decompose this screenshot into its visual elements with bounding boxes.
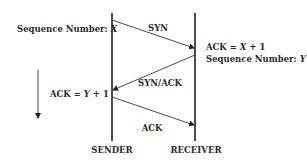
sender-label: SENDER [91,146,132,155]
ack-prefix: ACK = [50,89,84,99]
ack-label: ACK [142,124,163,133]
receiver-ack-label: ACK = X + 1 [206,43,265,52]
tcp-handshake-diagram: Sequence Number: X SYN ACK = X + 1 Seque… [0,0,307,164]
sender-sequence-number-label: Sequence Number: X [17,25,117,34]
syn-label: SYN [148,24,168,33]
seq-prefix: Sequence Number: [17,24,111,34]
seq-prefix: Sequence Number: [206,54,300,64]
ack-suffix: + 1 [90,89,109,99]
seq-var: X [111,24,118,34]
seq-var: Y [300,54,306,64]
ack-prefix: ACK = [206,42,240,52]
ack-suffix: + 1 [246,42,265,52]
sender-ack-label: ACK = Y + 1 [50,90,109,99]
synack-label: SYN/ACK [138,79,182,88]
receiver-label: RECEIVER [171,146,222,155]
receiver-sequence-number-label: Sequence Number: Y [206,55,306,64]
ack-arrow [112,97,194,125]
